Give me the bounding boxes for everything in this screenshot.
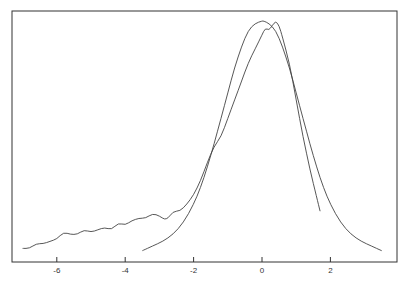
series-line-fitted bbox=[142, 21, 381, 251]
series-line-empirical bbox=[23, 22, 321, 248]
x-tick-label: 2 bbox=[328, 266, 333, 275]
x-tick-label: -2 bbox=[190, 266, 198, 275]
series-group bbox=[23, 21, 382, 251]
chart: -6-4-202 bbox=[0, 0, 405, 284]
x-tick-label: -4 bbox=[122, 266, 130, 275]
x-axis: -6-4-202 bbox=[53, 257, 333, 275]
x-tick-label: 0 bbox=[260, 266, 265, 275]
plot-frame bbox=[12, 11, 397, 262]
x-tick-label: -6 bbox=[53, 266, 61, 275]
